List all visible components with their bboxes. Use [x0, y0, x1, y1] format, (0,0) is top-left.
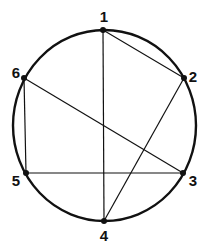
edge-6-5 [24, 78, 26, 173]
point-label-6: 6 [12, 64, 20, 81]
point-3 [180, 170, 186, 176]
edges-group [24, 30, 184, 221]
edge-1-2 [103, 30, 184, 78]
point-4 [101, 218, 107, 224]
point-2 [181, 75, 187, 81]
point-label-4: 4 [100, 227, 109, 244]
circle-diagram: 123456 [0, 0, 207, 246]
point-1 [100, 27, 106, 33]
point-label-2: 2 [189, 68, 197, 85]
point-6 [21, 75, 27, 81]
point-5 [23, 170, 29, 176]
point-label-3: 3 [189, 172, 197, 189]
point-label-5: 5 [12, 172, 20, 189]
point-label-1: 1 [100, 8, 108, 25]
